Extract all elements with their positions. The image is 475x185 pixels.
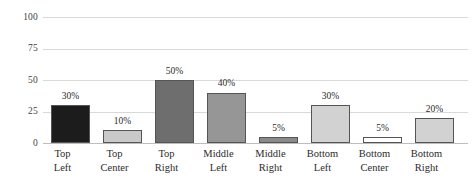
bar-value-label: 50%	[166, 67, 183, 77]
bar-value-label: 30%	[62, 92, 79, 102]
y-tick-label: 75	[8, 44, 38, 54]
bar-bottom-center[interactable]	[363, 137, 402, 143]
y-tick-label: 100	[8, 13, 38, 23]
bar-group[interactable]: 10%	[103, 17, 142, 143]
bar-chart: 100 75 50 25 0 30% 10% 50% 40%	[0, 0, 475, 185]
bar-middle-left[interactable]	[207, 93, 246, 143]
bar-middle-right[interactable]	[259, 137, 298, 143]
x-label-line-1: Bottom	[395, 147, 458, 161]
bar-top-left[interactable]	[51, 105, 90, 143]
bar-value-label: 10%	[114, 117, 131, 127]
x-tick-label-bottom-right: Bottom Right	[395, 147, 458, 175]
bar-value-label: 5%	[272, 124, 285, 134]
bar-group[interactable]: 5%	[363, 17, 402, 143]
bar-top-right[interactable]	[155, 80, 194, 143]
gridline-0	[43, 143, 468, 144]
bar-group[interactable]: 20%	[415, 17, 454, 143]
bar-group[interactable]: 40%	[207, 17, 246, 143]
bar-value-label: 5%	[376, 124, 389, 134]
bar-bottom-left[interactable]	[311, 105, 350, 143]
bar-value-label: 40%	[218, 79, 235, 89]
bar-bottom-right[interactable]	[415, 118, 454, 143]
bar-group[interactable]: 5%	[259, 17, 298, 143]
bar-value-label: 30%	[322, 92, 339, 102]
y-tick-label: 50	[8, 76, 38, 86]
plot-area: 30% 10% 50% 40% 5% 30% 5%	[43, 17, 468, 143]
bar-group[interactable]: 30%	[51, 17, 90, 143]
bar-top-center[interactable]	[103, 130, 142, 143]
bar-value-label: 20%	[426, 105, 443, 115]
x-label-line-2: Right	[395, 161, 458, 175]
bar-group[interactable]: 30%	[311, 17, 350, 143]
bar-group[interactable]: 50%	[155, 17, 194, 143]
y-tick-label: 25	[8, 107, 38, 117]
